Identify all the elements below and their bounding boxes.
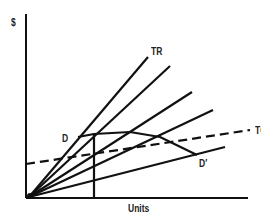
d-label: D [62,133,68,144]
tr-line [29,57,148,197]
break-even-diagram [0,0,261,222]
revenue-ray-4 [29,110,213,197]
y-axis-label: $ [11,17,16,28]
origin-point [27,193,33,199]
tc-label: TC [255,125,261,136]
revenue-ray-3 [29,92,192,197]
tc-line [26,130,250,164]
x-axis-label: Units [128,203,149,214]
revenue-ray-2 [29,66,170,197]
d-prime-label: D′ [199,158,207,169]
tr-label: TR [151,46,162,57]
